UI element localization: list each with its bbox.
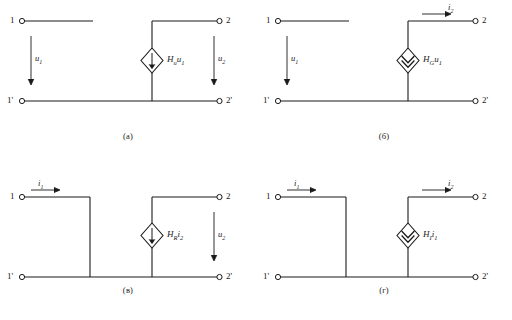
source-var-subscript: 1 bbox=[181, 59, 184, 66]
quantity-label-u1: u1 bbox=[291, 53, 298, 65]
panel-g-caption: (г) bbox=[256, 285, 512, 295]
terminal-1-node[interactable] bbox=[275, 194, 280, 199]
i1-arrow-head bbox=[54, 187, 60, 192]
controlled-source-two-port-figure: 1 1' 2 2' u1 u2 Huu1 (а) bbox=[0, 0, 512, 320]
u2-arrow-head bbox=[211, 79, 217, 85]
u2-arrow-head bbox=[211, 255, 217, 261]
terminal-2prime-node[interactable] bbox=[473, 98, 478, 103]
terminal-label-2prime: 2' bbox=[482, 271, 488, 281]
terminal-2prime-node[interactable] bbox=[217, 98, 222, 103]
i2-subscript: 2 bbox=[450, 8, 453, 14]
terminal-label-1prime: 1' bbox=[263, 95, 269, 105]
panel-a: 1 1' 2 2' u1 u2 Huu1 (а) bbox=[0, 0, 256, 160]
terminal-1-node[interactable] bbox=[19, 18, 24, 23]
source-expression-label: HRi2 bbox=[167, 229, 183, 241]
panel-g: 1 1' 2 2' i1 i2 HIi1 (г) bbox=[256, 160, 512, 320]
terminal-label-1: 1 bbox=[266, 191, 271, 201]
source-expression-label: HIi1 bbox=[423, 229, 437, 241]
terminal-label-2prime: 2' bbox=[482, 95, 488, 105]
quantity-label-i1: i1 bbox=[294, 178, 299, 190]
panel-v: 1 1' 2 2' i1 u2 HRi2 (в) bbox=[0, 160, 256, 320]
terminal-2-node[interactable] bbox=[473, 18, 478, 23]
current-source-diamond-icon bbox=[397, 223, 419, 248]
source-var-subscript: 1 bbox=[434, 234, 437, 241]
current-source-diamond-icon bbox=[397, 48, 419, 73]
terminal-label-2: 2 bbox=[226, 191, 231, 201]
panel-v-caption: (в) bbox=[0, 285, 256, 295]
terminal-label-2: 2 bbox=[482, 191, 487, 201]
terminal-1prime-node[interactable] bbox=[275, 274, 280, 279]
u1-subscript: 1 bbox=[39, 59, 42, 65]
terminal-1prime-node[interactable] bbox=[19, 98, 24, 103]
terminal-label-2prime: 2' bbox=[226, 271, 232, 281]
i1-subscript: 1 bbox=[40, 184, 43, 190]
panel-b-caption: (б) bbox=[256, 131, 512, 141]
terminal-1prime-node[interactable] bbox=[275, 98, 280, 103]
terminal-1prime-node[interactable] bbox=[19, 274, 24, 279]
panel-a-caption: (а) bbox=[0, 131, 256, 141]
terminal-label-1prime: 1' bbox=[263, 271, 269, 281]
source-expression-label: HGu1 bbox=[423, 54, 442, 66]
terminal-label-1prime: 1' bbox=[7, 95, 13, 105]
terminal-label-2prime: 2' bbox=[226, 95, 232, 105]
terminal-label-1prime: 1' bbox=[7, 271, 13, 281]
terminal-label-1: 1 bbox=[10, 15, 15, 25]
terminal-2prime-node[interactable] bbox=[473, 274, 478, 279]
terminal-1-node[interactable] bbox=[19, 194, 24, 199]
source-var-subscript: 2 bbox=[180, 234, 183, 241]
terminal-label-1: 1 bbox=[10, 191, 15, 201]
quantity-label-u2: u2 bbox=[218, 229, 225, 241]
terminal-2prime-node[interactable] bbox=[217, 274, 222, 279]
quantity-label-i1: i1 bbox=[38, 178, 43, 190]
terminal-label-2: 2 bbox=[482, 15, 487, 25]
terminal-label-1: 1 bbox=[266, 15, 271, 25]
u1-arrow-head bbox=[28, 79, 34, 85]
source-var-subscript: 1 bbox=[439, 59, 442, 66]
u2-subscript: 2 bbox=[222, 235, 225, 241]
terminal-2-node[interactable] bbox=[473, 194, 478, 199]
terminal-label-2: 2 bbox=[226, 15, 231, 25]
terminal-1-node[interactable] bbox=[275, 18, 280, 23]
u1-subscript: 1 bbox=[295, 59, 298, 65]
terminal-2-node[interactable] bbox=[217, 18, 222, 23]
quantity-label-i2: i2 bbox=[448, 2, 453, 14]
quantity-label-i2: i2 bbox=[448, 178, 453, 190]
panel-b: 1 1' 2 2' u1 i2 HGu1 (б) bbox=[256, 0, 512, 160]
i1-subscript: 1 bbox=[296, 184, 299, 190]
source-expression-label: Huu1 bbox=[167, 54, 184, 66]
u2-subscript: 2 bbox=[222, 59, 225, 65]
quantity-label-u2: u2 bbox=[218, 53, 225, 65]
terminal-2-node[interactable] bbox=[217, 194, 222, 199]
i1-arrow-head bbox=[310, 187, 316, 192]
quantity-label-u1: u1 bbox=[35, 53, 42, 65]
u1-arrow-head bbox=[284, 79, 290, 85]
i2-subscript: 2 bbox=[450, 184, 453, 190]
